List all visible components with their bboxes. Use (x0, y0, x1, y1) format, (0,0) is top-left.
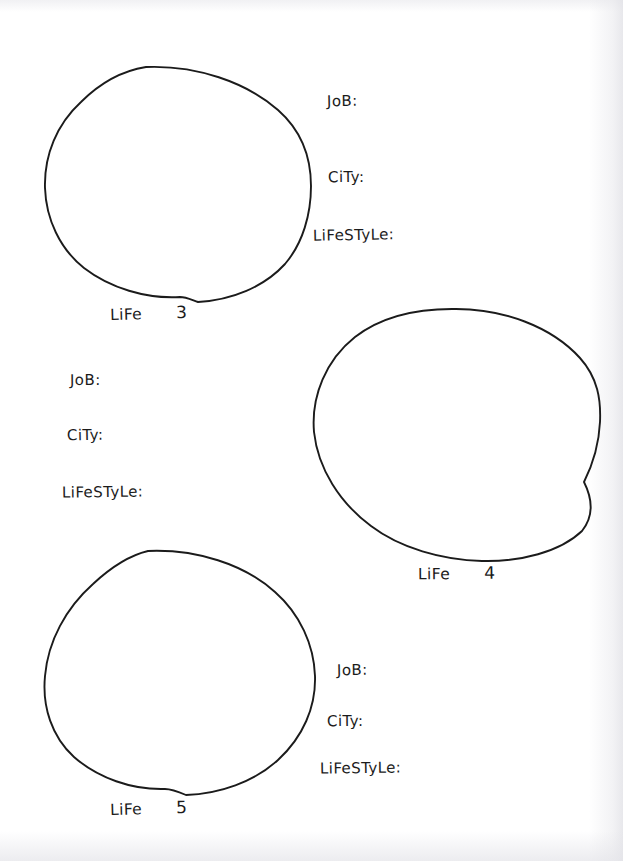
caption-word-life-4: LiFe (418, 565, 450, 583)
caption-number-life-3: 3 (176, 302, 188, 322)
caption-word-life-5: LiFe (110, 800, 143, 819)
hand-drawn-circle-life-4[interactable] (314, 309, 601, 561)
field-label-lifestyle-life-5[interactable]: LiFeSTyLe: (320, 758, 401, 777)
caption-word-life-3: LiFe (110, 305, 143, 324)
field-label-city-life-4[interactable]: CiTy: (67, 426, 104, 445)
field-label-lifestyle-life-3[interactable]: LiFeSTyLe: (313, 225, 395, 245)
caption-number-life-4: 4 (484, 563, 495, 583)
field-label-city-life-3[interactable]: CiTy: (328, 168, 364, 186)
hand-drawn-circle-life-5[interactable] (44, 551, 315, 795)
caption-life-3: LiFe3 (110, 302, 188, 324)
caption-life-4: LiFe4 (418, 563, 496, 584)
field-label-job-life-5[interactable]: JoB: (337, 661, 368, 680)
caption-life-5: LiFe5 (110, 797, 188, 819)
field-label-job-life-3[interactable]: JoB: (327, 92, 358, 111)
hand-drawn-circle-life-3[interactable] (45, 67, 311, 302)
caption-number-life-5: 5 (176, 797, 188, 817)
worksheet-page: JoB: CiTy: LiFeSTyLe: LiFe3 JoB: CiTy: L… (0, 0, 623, 861)
field-label-lifestyle-life-4[interactable]: LiFeSTyLe: (62, 482, 143, 501)
field-label-job-life-4[interactable]: JoB: (70, 371, 101, 389)
field-label-city-life-5[interactable]: CiTy: (327, 712, 363, 730)
